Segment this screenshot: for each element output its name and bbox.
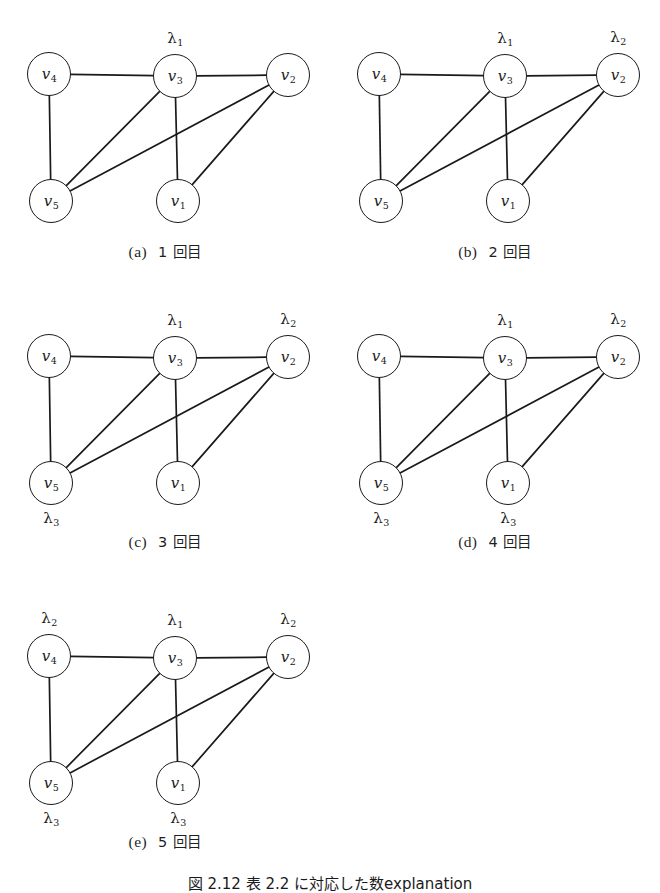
edge-v2-v5 (70, 367, 270, 473)
node-label-v2: v2 (611, 68, 626, 83)
node-label-v3: v3 (168, 351, 183, 366)
panel-caption-tag: (c) (129, 533, 147, 550)
node-label-subscript: 3 (177, 657, 183, 668)
edge-v3-v5 (66, 91, 160, 186)
panel-caption-text: 5 回目 (158, 834, 201, 850)
lambda-glyph: λ (43, 509, 53, 527)
node-v4: v4 (27, 334, 71, 378)
figure-panel-a: v4v3v2v5v1λ1(a)1 回目 (0, 8, 330, 278)
lambda-glyph: λ (170, 809, 180, 827)
lambda-subscript: 2 (51, 617, 57, 628)
lambda-glyph: λ (167, 29, 177, 47)
node-label-subscript: 5 (383, 200, 389, 211)
node-label-base: v (498, 349, 506, 367)
edge-v4-v5 (49, 377, 50, 462)
node-v5: v5 (359, 179, 403, 223)
node-label-base: v (374, 192, 382, 210)
node-v3: v3 (483, 336, 527, 380)
lambda-label-v2-d: λ2 (610, 310, 626, 328)
node-label-v1: v1 (171, 194, 186, 209)
node-v3: v3 (153, 336, 197, 380)
node-label-v5: v5 (374, 476, 389, 491)
node-label-v3: v3 (498, 69, 513, 84)
node-label-v4: v4 (42, 67, 57, 82)
node-v1: v1 (486, 461, 530, 505)
panel-caption-tag: (e) (129, 833, 147, 850)
node-label-base: v (281, 66, 289, 84)
node-label-v4: v4 (372, 67, 387, 82)
lambda-glyph: λ (280, 610, 290, 628)
lambda-glyph: λ (497, 311, 507, 329)
node-v4: v4 (27, 52, 71, 96)
edge-v4-v5 (379, 377, 380, 462)
edge-v3-v1 (176, 679, 178, 762)
node-label-v3: v3 (168, 651, 183, 666)
node-label-base: v (42, 347, 50, 365)
node-label-subscript: 1 (510, 482, 516, 493)
node-label-subscript: 2 (620, 356, 626, 367)
lambda-label-v5-e: λ3 (43, 809, 59, 827)
panel-caption-d: (d)4 回目 (330, 530, 660, 551)
figure-caption-text: 図 2.12 表 2.2 に対応した数explanation (188, 875, 472, 893)
lambda-subscript: 2 (620, 36, 626, 47)
lambda-subscript: 2 (620, 318, 626, 329)
node-label-base: v (168, 67, 176, 85)
node-label-v4: v4 (42, 349, 57, 364)
node-label-subscript: 4 (51, 655, 57, 666)
edge-v4-v5 (379, 95, 380, 180)
lambda-glyph: λ (610, 28, 620, 46)
lambda-glyph: λ (167, 311, 177, 329)
lambda-glyph: λ (497, 29, 507, 47)
node-label-v2: v2 (281, 68, 296, 83)
lambda-subscript: 1 (177, 619, 183, 630)
lambda-subscript: 3 (53, 517, 59, 528)
node-label-v1: v1 (171, 776, 186, 791)
node-label-v2: v2 (611, 350, 626, 365)
panel-caption-c: (c)3 回目 (0, 530, 330, 551)
graph-e: v4v3v2v5v1λ2λ1λ2λ3λ3 (0, 590, 330, 820)
edge-v3-v5 (66, 673, 160, 768)
node-label-subscript: 5 (53, 782, 59, 793)
lambda-label-v1-d: λ3 (500, 509, 516, 527)
graph-d: v4v3v2v5v1λ1λ2λ3λ3 (330, 290, 660, 520)
edge-v3-v2 (196, 657, 267, 658)
lambda-label-v2-c: λ2 (280, 310, 296, 328)
edge-v4-v5 (49, 677, 50, 762)
node-label-base: v (42, 647, 50, 665)
node-label-base: v (498, 67, 506, 85)
lambda-subscript: 3 (383, 517, 389, 528)
node-label-base: v (372, 347, 380, 365)
node-v2: v2 (596, 53, 640, 97)
lambda-label-v3-c: λ1 (167, 311, 183, 329)
node-label-subscript: 3 (507, 357, 513, 368)
edge-v2-v5 (400, 85, 600, 191)
panel-caption-text: 4 回目 (488, 534, 531, 550)
node-label-base: v (42, 65, 50, 83)
node-v4: v4 (27, 634, 71, 678)
node-v2: v2 (596, 335, 640, 379)
edge-v4-v3 (70, 356, 154, 357)
node-label-subscript: 1 (180, 782, 186, 793)
panel-caption-tag: (a) (129, 243, 147, 260)
figure-panel-e: v4v3v2v5v1λ2λ1λ2λ3λ3(e)5 回目 (0, 590, 330, 860)
lambda-label-v3-d: λ1 (497, 311, 513, 329)
node-label-subscript: 4 (51, 73, 57, 84)
edge-v3-v2 (196, 75, 267, 76)
figure-panel-d: v4v3v2v5v1λ1λ2λ3λ3(d)4 回目 (330, 290, 660, 560)
edge-v2-v5 (400, 367, 600, 473)
edge-v3-v5 (396, 91, 490, 186)
edge-v3-v2 (196, 357, 267, 358)
panel-caption-text: 1 回目 (158, 244, 201, 260)
figure-panel-c: v4v3v2v5v1λ1λ2λ3(c)3 回目 (0, 290, 330, 560)
lambda-glyph: λ (280, 310, 290, 328)
node-v2: v2 (266, 635, 310, 679)
lambda-label-v2-b: λ2 (610, 28, 626, 46)
panel-caption-e: (e)5 回目 (0, 830, 330, 851)
lambda-label-v1-e: λ3 (170, 809, 186, 827)
graph-a: v4v3v2v5v1λ1 (0, 8, 330, 238)
edge-v2-v5 (70, 85, 270, 191)
node-label-subscript: 4 (51, 355, 57, 366)
edge-v3-v2 (526, 357, 597, 358)
figure-panel-b: v4v3v2v5v1λ1λ2(b)2 回目 (330, 8, 660, 278)
